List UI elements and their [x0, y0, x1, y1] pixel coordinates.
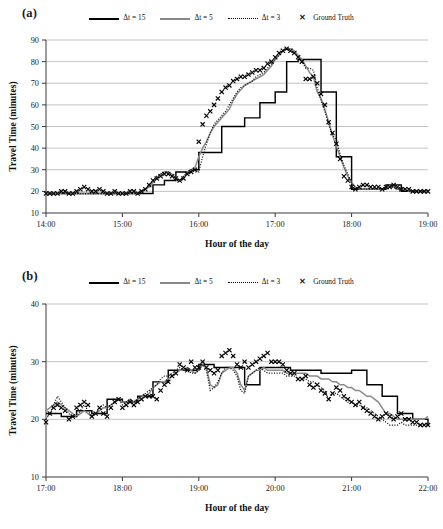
x-tick-label: 20:00 — [266, 484, 285, 493]
y-tick-label: 80 — [31, 58, 39, 67]
x-tick-label: 18:00 — [342, 220, 361, 229]
x-tick-label: 16:00 — [189, 220, 208, 229]
y-tick-label: 10 — [31, 473, 39, 482]
panel-b: (b) Δt = 15 Δt = 5 Δt = 3 ✕ Ground Truth… — [0, 264, 443, 528]
x-tick-label: 22:00 — [419, 484, 438, 493]
y-axis-title: Travel Time (minutes) — [8, 81, 19, 171]
y-tick-label: 40 — [31, 144, 39, 153]
x-tick-label: 19:00 — [419, 220, 438, 229]
x-tick-label: 18:00 — [113, 484, 132, 493]
figure-container: (a) Δt = 15 Δt = 5 Δt = 3 ✕ Ground Truth… — [0, 0, 443, 529]
y-tick-label: 90 — [31, 36, 39, 45]
y-tick-label: 30 — [31, 166, 39, 175]
series-line-dt5 — [46, 49, 428, 194]
panel-b-plot: 1020304017:0018:0019:0020:0021:0022:00Ho… — [0, 264, 443, 528]
y-tick-label: 20 — [31, 187, 39, 196]
x-axis-title: Hour of the day — [205, 239, 269, 249]
y-tick-label: 30 — [31, 358, 39, 367]
x-tick-label: 17:00 — [37, 484, 56, 493]
y-tick-label: 50 — [31, 123, 39, 132]
ground-truth-markers — [44, 348, 430, 427]
y-tick-label: 40 — [31, 300, 39, 309]
y-axis-title: Travel Time (minutes) — [8, 345, 19, 435]
y-tick-label: 60 — [31, 101, 39, 110]
x-tick-label: 15:00 — [113, 220, 132, 229]
x-tick-label: 17:00 — [266, 220, 285, 229]
x-tick-label: 19:00 — [189, 484, 208, 493]
y-tick-label: 70 — [31, 79, 39, 88]
x-tick-label: 21:00 — [342, 484, 361, 493]
y-tick-label: 20 — [31, 415, 39, 424]
panel-a-plot: 10203040506070809014:0015:0016:0017:0018… — [0, 0, 443, 264]
panel-a: (a) Δt = 15 Δt = 5 Δt = 3 ✕ Ground Truth… — [0, 0, 443, 264]
x-axis-title: Hour of the day — [205, 503, 269, 513]
y-tick-label: 10 — [31, 209, 39, 218]
series-line-dt3 — [46, 49, 428, 194]
ground-truth-markers — [44, 47, 430, 196]
x-tick-label: 14:00 — [37, 220, 56, 229]
